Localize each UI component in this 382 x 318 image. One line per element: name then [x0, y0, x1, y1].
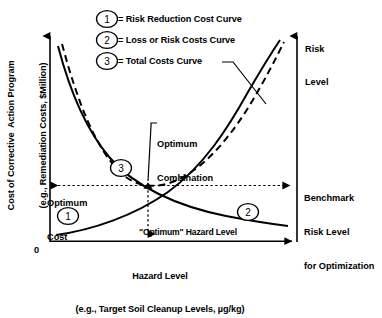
optimum-combination-annotation: Optimum Combination [157, 117, 213, 207]
x-axis-title-line1: Hazard Level [20, 271, 300, 282]
legend-equals-3: = [118, 56, 123, 66]
optimum-cost-line1: Optimum [47, 198, 87, 209]
benchmark-line2: Risk Level [304, 227, 374, 238]
origin-tick-label: 0 [34, 245, 39, 255]
curve-label-2-text: 2 [245, 207, 251, 218]
legend-marker-2: 2 [97, 32, 118, 49]
legend-item-risk-reduction-cost-curve: = Risk Reduction Cost Curve [118, 14, 242, 24]
optimum-cost-annotation: Optimum Cost [47, 176, 87, 266]
benchmark-risk-level-annotation: Benchmark Risk Level for Optimization [304, 171, 374, 294]
legend-item-total-costs-curve: = Total Costs Curve [118, 56, 202, 66]
legend-marker-2-text: 2 [104, 35, 110, 46]
legend-marker-3: 3 [97, 53, 118, 70]
benchmark-line1: Benchmark [304, 193, 374, 204]
x-axis-title-line2: (e.g., Target Soil Cleanup Levels, µg/kg… [20, 304, 300, 315]
legend-equals-2: = [118, 35, 123, 45]
optimum-combination-line2: Combination [157, 173, 213, 184]
legend-label-2: Loss or Risk Costs Curve [126, 35, 235, 45]
legend-marker-1: 1 [97, 11, 118, 28]
y-axis-title-line1: Cost of Corrective Action Program [5, 35, 16, 235]
optimum-hazard-level-annotation: "Optimum" Hazard Level [139, 228, 237, 238]
right-axis-title: Risk Level [305, 22, 329, 110]
curve-label-2: 2 [238, 204, 259, 221]
optimum-combination-leader [148, 126, 151, 181]
legend-equals-1: = [118, 14, 123, 24]
legend-item-loss-or-risk-costs-curve: = Loss or Risk Costs Curve [118, 35, 235, 45]
right-axis-title-line1: Risk [305, 44, 329, 55]
optimum-combination-line1: Optimum [157, 139, 213, 150]
right-axis-title-line2: Level [305, 77, 329, 88]
benchmark-line3: for Optimization [304, 261, 374, 272]
curve-label-3-text: 3 [118, 163, 124, 174]
optimum-cost-line2: Cost [47, 232, 87, 243]
legend-marker-1-text: 1 [104, 14, 110, 25]
curve-label-3: 3 [111, 160, 132, 177]
legend-label-1: Risk Reduction Cost Curve [126, 14, 242, 24]
legend-marker-3-text: 3 [104, 56, 110, 67]
legend-label-3: Total Costs Curve [126, 56, 202, 66]
